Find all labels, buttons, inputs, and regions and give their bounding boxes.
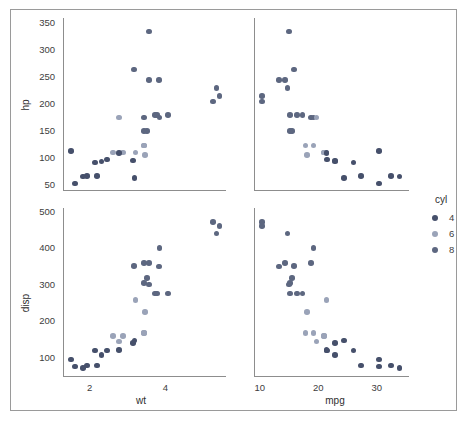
axis-title-hp: hp — [21, 90, 31, 120]
data-point — [304, 309, 310, 315]
data-point — [142, 152, 148, 158]
data-point — [156, 264, 162, 270]
data-point — [133, 150, 139, 156]
data-point — [84, 173, 90, 179]
data-point — [324, 347, 330, 353]
data-point — [388, 363, 394, 369]
legend-item[interactable]: 6 — [423, 227, 468, 243]
data-point — [332, 352, 338, 358]
panel-hp-vs-wt: 50100150200250300350 — [11, 10, 233, 200]
data-point — [376, 148, 382, 154]
chart-root: 50100150200250300350 10020030040050024 1… — [0, 0, 468, 430]
data-point — [104, 157, 110, 163]
data-point — [92, 160, 98, 166]
x-tick-label: 30 — [362, 383, 392, 393]
data-point — [110, 150, 116, 156]
data-point — [131, 67, 137, 73]
y-axis-line — [254, 208, 255, 376]
axis-title-disp: disp — [21, 285, 31, 321]
data-point — [358, 363, 364, 369]
y-tick-label: 500 — [23, 207, 55, 217]
data-point — [287, 291, 293, 297]
data-point — [286, 282, 292, 288]
data-point — [332, 158, 338, 164]
data-point — [285, 231, 291, 237]
data-point — [397, 365, 403, 371]
data-point — [131, 263, 137, 269]
x-tick-label: 4 — [150, 383, 180, 393]
data-point — [214, 85, 220, 91]
y-axis-line — [63, 18, 64, 190]
data-point — [116, 150, 122, 156]
data-point — [156, 77, 162, 83]
y-tick-label: 50 — [23, 180, 55, 190]
data-point — [142, 309, 148, 315]
data-point — [303, 330, 309, 336]
legend-item-label: 8 — [449, 245, 454, 255]
data-point — [321, 333, 327, 339]
data-point — [351, 348, 357, 354]
data-point — [300, 112, 306, 118]
data-point — [358, 173, 364, 179]
data-point — [217, 93, 223, 99]
panel-hp-vs-mpg — [233, 10, 413, 200]
data-point — [133, 297, 139, 303]
data-point — [116, 115, 122, 121]
plot-frame: 50100150200250300350 10020030040050024 1… — [10, 9, 457, 411]
legend: cyl 468 — [423, 195, 468, 259]
data-point — [214, 231, 220, 237]
data-point — [157, 245, 163, 251]
x-axis-line — [254, 190, 409, 191]
data-point — [376, 181, 382, 187]
legend-item[interactable]: 4 — [423, 211, 468, 227]
data-point — [388, 173, 394, 179]
axis-title-wt: wt — [131, 396, 151, 406]
data-point — [154, 291, 160, 297]
data-point — [324, 157, 330, 163]
x-axis-line — [63, 376, 226, 377]
data-point — [300, 291, 306, 297]
data-point — [68, 357, 74, 363]
data-point — [210, 219, 216, 225]
data-point — [141, 128, 147, 134]
panel-disp-vs-mpg: 102030 — [233, 200, 413, 412]
data-point — [72, 364, 78, 370]
data-point — [287, 128, 293, 134]
data-point — [130, 340, 136, 346]
data-point — [92, 348, 98, 354]
data-point — [285, 85, 291, 91]
data-point — [141, 330, 147, 336]
data-point — [287, 112, 293, 118]
data-point — [376, 364, 382, 370]
data-point — [259, 93, 265, 99]
data-point — [324, 150, 330, 156]
legend-key-dot — [432, 247, 438, 253]
legend-rows: 468 — [423, 211, 468, 259]
data-point — [311, 245, 317, 251]
data-point — [291, 263, 297, 269]
data-point — [217, 223, 223, 229]
data-point — [376, 357, 382, 363]
data-point — [276, 264, 282, 270]
data-point — [141, 115, 147, 121]
data-point — [120, 333, 126, 339]
legend-title: cyl — [435, 195, 468, 205]
data-point — [282, 260, 288, 266]
data-point — [282, 77, 288, 83]
y-tick-label: 250 — [23, 72, 55, 82]
legend-item[interactable]: 8 — [423, 243, 468, 259]
data-point — [141, 143, 147, 149]
data-point — [84, 363, 90, 369]
data-point — [72, 181, 78, 187]
data-point — [276, 77, 282, 83]
data-point — [130, 158, 136, 164]
data-point — [311, 330, 317, 336]
data-point — [146, 260, 152, 266]
data-point — [165, 291, 171, 297]
legend-item-label: 4 — [449, 213, 454, 223]
data-point — [332, 340, 338, 346]
x-tick-label: 20 — [303, 383, 333, 393]
data-point — [314, 115, 320, 121]
data-point — [314, 339, 320, 345]
data-point — [146, 77, 152, 83]
